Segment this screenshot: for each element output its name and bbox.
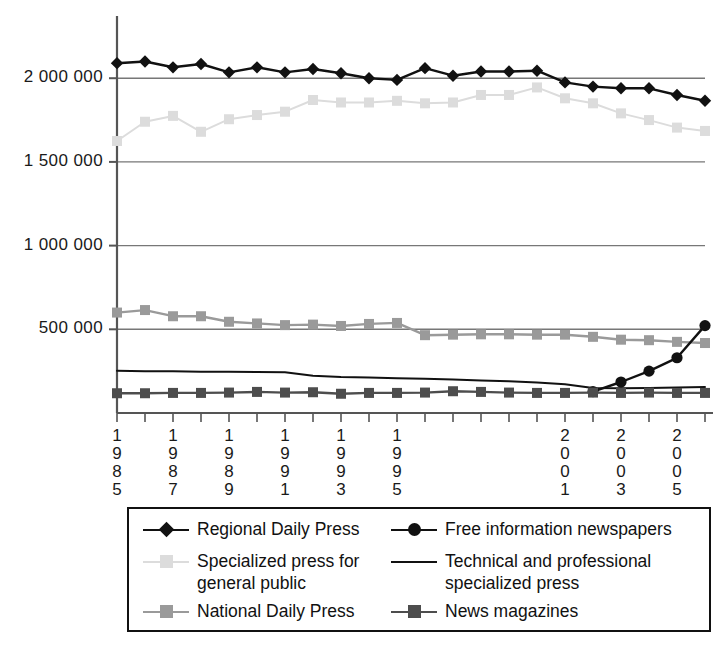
data-point-marker [196,127,206,137]
legend-item-specialized-press-for-general-public[interactable]: Specialized press for general public [143,550,391,594]
x-tick-label-1991: 1991 [278,427,292,499]
x-tick-digit: 2 [670,427,684,445]
x-tick-digit: 1 [278,427,292,445]
circle-marker-icon [391,519,437,541]
data-point-marker [615,82,627,94]
series-news-magazines [112,386,710,399]
x-tick-digit: 8 [222,463,236,481]
x-tick-label-2005: 2005 [670,427,684,499]
data-point-marker [308,387,318,397]
data-point-marker [196,388,206,398]
data-point-marker [476,387,486,397]
x-tick-digit: 9 [222,481,236,499]
data-point-marker [196,311,206,321]
legend-marker [408,523,421,536]
legend-item-free-information-newspapers[interactable]: Free information newspapers [391,518,699,544]
data-point-marker [280,107,290,117]
x-tick-digit: 9 [278,463,292,481]
x-tick-digit: 1 [222,427,236,445]
y-tick-label-0: 500 000 [39,318,103,338]
legend-marker [160,605,173,618]
legend-item-news-magazines[interactable]: News magazines [391,600,699,626]
x-tick-digit: 9 [390,463,404,481]
data-point-marker [448,330,458,340]
x-tick-digit: 5 [110,481,124,499]
data-point-marker [363,72,375,84]
x-tick-label-1989: 1989 [222,427,236,499]
x-tick-digit: 9 [334,463,348,481]
data-point-marker [168,388,178,398]
x-tick-digit: 9 [390,445,404,463]
x-tick-label-1985: 1985 [110,427,124,499]
data-point-marker [139,55,151,67]
data-point-marker [672,388,682,398]
data-point-marker [532,330,542,340]
data-point-marker [616,335,626,345]
data-point-marker [251,61,263,73]
data-point-marker [532,82,542,92]
data-point-marker [419,62,431,74]
data-point-marker [308,95,318,105]
data-point-marker [448,97,458,107]
x-tick-label-1995: 1995 [390,427,404,499]
data-point-marker [616,388,626,398]
data-point-marker [588,332,598,342]
data-point-marker [252,387,262,397]
data-point-marker [280,388,290,398]
data-point-marker [112,136,122,146]
data-point-marker [504,329,514,339]
data-point-marker [112,308,122,318]
x-tick-digit: 9 [110,445,124,463]
x-tick-digit: 1 [558,481,572,499]
series-regional-daily-press [111,55,711,107]
data-point-marker [588,98,598,108]
chart-legend: Regional Daily PressFree information new… [127,507,711,632]
diamond-marker-icon [143,519,189,541]
y-tick-label-1: 1 000 000 [24,235,103,255]
data-point-marker [336,389,346,399]
data-point-marker [532,388,542,398]
x-tick-digit: 0 [614,445,628,463]
legend-items: Regional Daily PressFree information new… [143,518,699,626]
x-tick-digit: 8 [166,463,180,481]
data-point-marker [140,117,150,127]
data-point-marker [307,63,319,75]
x-tick-digit: 1 [334,427,348,445]
data-point-marker [476,329,486,339]
x-tick-digit: 9 [166,445,180,463]
legend-item-technical-and-professional-specialized-press[interactable]: Technical and professional specialized p… [391,550,699,594]
series-line [117,62,705,101]
data-point-marker [587,80,599,92]
x-tick-digit: 0 [558,445,572,463]
data-point-marker [112,388,122,398]
data-point-marker [700,388,710,398]
x-tick-digit: 9 [278,445,292,463]
data-point-marker [447,70,459,82]
data-point-marker [588,388,598,398]
legend-item-national-daily-press[interactable]: National Daily Press [143,600,391,626]
data-point-marker [700,126,710,136]
legend-label: News magazines [445,600,578,622]
legend-line-segment [391,561,437,563]
data-point-marker [671,352,682,363]
data-point-marker [364,97,374,107]
chart-container: 500 0001 000 0001 500 0002 000 000 19851… [0,0,724,651]
data-point-marker [308,320,318,330]
data-point-marker [336,97,346,107]
data-point-marker [392,318,402,328]
square-marker-icon [391,601,437,623]
data-point-marker [167,61,179,73]
legend-item-regional-daily-press[interactable]: Regional Daily Press [143,518,391,544]
x-tick-digit: 5 [390,481,404,499]
data-point-marker [700,338,710,348]
x-tick-digit: 1 [390,427,404,445]
x-tick-digit: 0 [670,463,684,481]
legend-label: Free information newspapers [445,518,672,540]
x-tick-digit: 1 [278,481,292,499]
data-point-marker [560,388,570,398]
x-tick-digit: 9 [222,445,236,463]
data-point-marker [475,65,487,77]
data-point-marker [224,317,234,327]
data-point-marker [168,311,178,321]
square-marker-icon [143,551,189,573]
